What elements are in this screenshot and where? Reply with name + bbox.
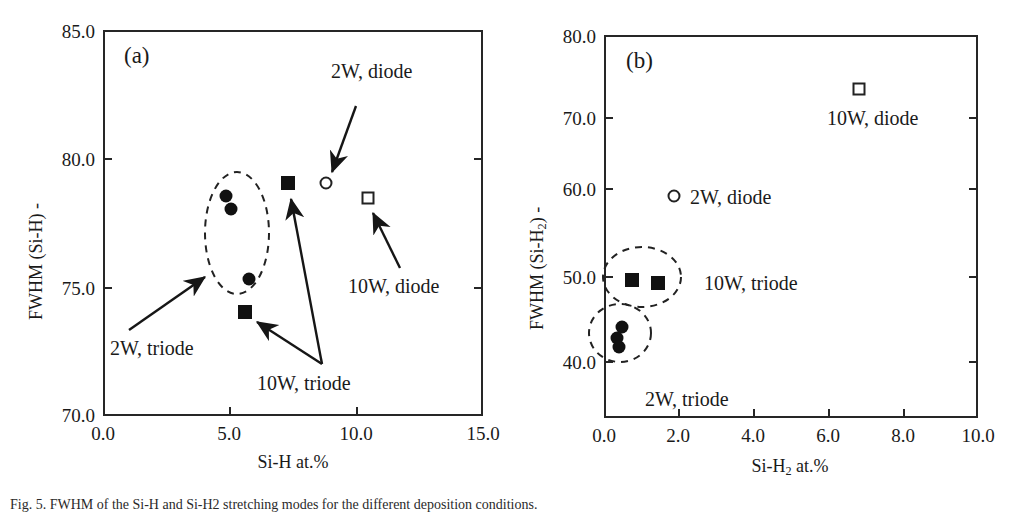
panel-b-ytick-right-40 xyxy=(969,361,978,363)
panel-a-xlabel-0: 0.0 xyxy=(91,424,115,443)
panel-b-annotation-2w-diode: 2W, diode xyxy=(690,186,771,209)
panel-b-point-10w-diode xyxy=(853,83,866,96)
panel-b-xlabel-6: 6.0 xyxy=(816,426,840,445)
panel-a-annotation-2w-triode: 2W, triode xyxy=(110,337,194,360)
panel-b-xlabel-0: 0.0 xyxy=(592,426,616,445)
panel-a-point-2w-diode xyxy=(320,177,333,190)
panel-b-ytick-70 xyxy=(604,117,613,119)
panel-b-x-axis-title: Si-H2 at.% xyxy=(751,456,828,479)
panel-a-point-2w-triode-2 xyxy=(225,203,238,216)
panel-a-xlabel-5: 5.0 xyxy=(217,424,241,443)
panel-a-xtick-10 xyxy=(356,407,358,416)
panel-b-xlabel-4: 4.0 xyxy=(741,426,765,445)
panel-b-annotation-2w-triode: 2W, triode xyxy=(645,388,729,411)
panel-b-ytick-40 xyxy=(604,361,613,363)
panel-a-point-10w-diode xyxy=(362,192,375,205)
panel-b-point-10w-triode-2 xyxy=(651,276,665,290)
panel-b-ytick-50 xyxy=(604,276,613,278)
panel-b-ytick-right-70 xyxy=(969,117,978,119)
panel-b-xlabel-10: 10.0 xyxy=(961,426,994,445)
panel-a-xlabel-10: 10.0 xyxy=(339,424,372,443)
panel-a-point-10w-triode-1 xyxy=(281,176,295,190)
panel-b-annotation-10w-diode: 10W, diode xyxy=(827,107,918,130)
panel-a-ytick-70 xyxy=(103,414,112,416)
panel-a-annotation-10w-diode: 10W, diode xyxy=(348,275,439,298)
panel-b-ytick-80 xyxy=(604,35,613,37)
panel-a-point-10w-triode-2 xyxy=(238,305,252,319)
panel-b-ylabel-40: 40.0 xyxy=(534,353,596,372)
panel-a-xlabel-15: 15.0 xyxy=(466,424,499,443)
panel-b-x-axis-title-main: Si-H xyxy=(751,456,785,476)
panel-b-ylabel-80: 80.0 xyxy=(534,27,596,46)
panel-a-y-axis-title: FWHM (Si-H) - xyxy=(26,203,47,320)
figure-caption: Fig. 5. FWHM of the Si-H and Si-H2 stret… xyxy=(10,497,1020,513)
panel-b-x-axis-title-tail: at.% xyxy=(792,456,829,476)
panel-b-y-axis-title: FWHM (Si-H2) - xyxy=(527,207,550,330)
panel-a-x-axis-title: Si-H at.% xyxy=(258,452,329,473)
panel-b-point-10w-triode-1 xyxy=(625,273,639,287)
panel-a-ytick-right-80 xyxy=(474,158,483,160)
panel-a-xtick-5 xyxy=(229,407,231,416)
panel-a-tag: (a) xyxy=(124,43,150,69)
panel-b-ytick-right-50 xyxy=(969,276,978,278)
panel-a-ytick-right-75 xyxy=(474,287,483,289)
panel-b-tag: (b) xyxy=(626,48,653,74)
panel-b-xtick-8 xyxy=(903,409,905,418)
panel-b-annotation-10w-triode: 10W, triode xyxy=(704,272,798,295)
panel-a-ytick-80 xyxy=(103,158,112,160)
panel-b-point-2w-diode xyxy=(668,190,681,203)
panel-a-point-2w-triode-1 xyxy=(220,190,233,203)
panel-a-annotation-10w-triode: 10W, triode xyxy=(257,372,351,395)
panel-b-plot-frame xyxy=(604,35,978,418)
panel-b-xtick-6 xyxy=(828,409,830,418)
panel-b-point-2w-triode-3 xyxy=(613,341,626,354)
panel-a-ylabel-80: 80.0 xyxy=(33,150,95,169)
panel-b-y-axis-title-sub: 2 xyxy=(535,223,549,229)
panel-a-ylabel-70: 70.0 xyxy=(33,406,95,425)
panel-b-xlabel-8: 8.0 xyxy=(891,426,915,445)
panel-b-ylabel-60: 60.0 xyxy=(534,180,596,199)
panel-b-xtick-4 xyxy=(753,409,755,418)
panel-a-ytick-75 xyxy=(103,287,112,289)
panel-b-y-axis-title-post: ) - xyxy=(527,207,547,224)
panel-a-ylabel-85: 85.0 xyxy=(33,22,95,41)
panel-b-ytick-60 xyxy=(604,188,613,190)
panel-a-annotation-2w-diode: 2W, diode xyxy=(331,60,412,83)
figure-container: 85.0 80.0 75.0 70.0 0.0 5.0 10.0 15.0 Si… xyxy=(0,0,1029,514)
panel-a-ytick-85 xyxy=(103,30,112,32)
panel-b-xlabel-2: 2.0 xyxy=(666,426,690,445)
panel-b-ylabel-70: 70.0 xyxy=(534,109,596,128)
panel-b-y-axis-title-pre: FWHM (Si-H xyxy=(527,229,547,330)
panel-b-ytick-right-60 xyxy=(969,188,978,190)
panel-a-point-2w-triode-3 xyxy=(243,273,256,286)
